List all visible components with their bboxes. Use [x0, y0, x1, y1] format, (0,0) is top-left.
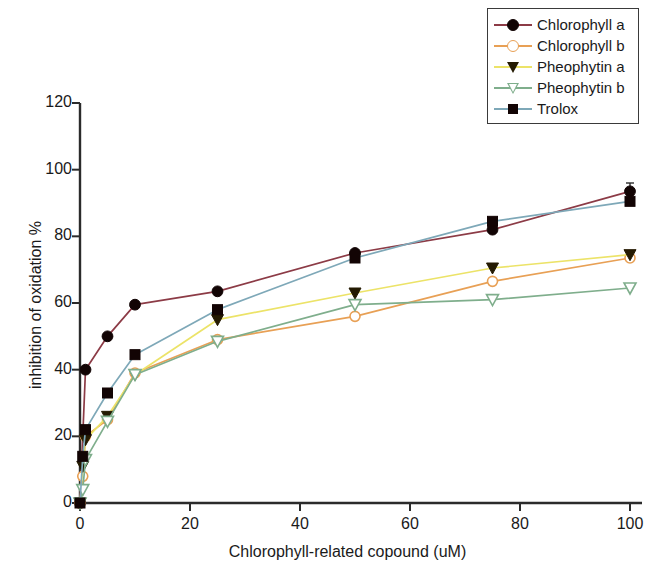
- data-point-chlorophyll-b: [488, 276, 498, 286]
- legend: Chlorophyll a Chlorophyll b Pheophytin a…: [487, 8, 639, 124]
- series-trolox: [75, 196, 635, 508]
- x-tick-label: 60: [380, 515, 440, 533]
- x-tick-label: 20: [160, 515, 220, 533]
- legend-item-chlorophyll-b: Chlorophyll b: [494, 35, 632, 56]
- legend-swatch-chlorophyll-a: [494, 17, 532, 33]
- data-point-trolox: [81, 425, 91, 435]
- data-point-trolox: [488, 216, 498, 226]
- legend-swatch-trolox: [494, 101, 532, 117]
- circle-open-marker-icon: [507, 40, 519, 52]
- legend-swatch-pheophytin-a: [494, 59, 532, 75]
- chart-figure: 020406080100120 020406080100 Chlorophyll…: [0, 0, 647, 569]
- series-chlorophyll-a: [75, 183, 636, 508]
- triangle-down-open-marker-icon: [507, 83, 519, 94]
- data-point-pheophytin-b: [77, 485, 89, 496]
- data-point-chlorophyll-a: [102, 331, 113, 342]
- x-axis-title: Chlorophyll-related copound (uM): [0, 543, 647, 561]
- y-tick-label: 0: [30, 493, 72, 511]
- legend-item-chlorophyll-a: Chlorophyll a: [494, 14, 632, 35]
- series-pheophytin-a: [74, 250, 636, 509]
- legend-label-pheophytin-a: Pheophytin a: [537, 59, 625, 75]
- data-point-chlorophyll-a: [80, 364, 91, 375]
- legend-item-pheophytin-b: Pheophytin b: [494, 77, 632, 98]
- data-point-trolox: [75, 498, 85, 508]
- series-group: [74, 183, 636, 509]
- legend-swatch-pheophytin-b: [494, 80, 532, 96]
- legend-label-pheophytin-b: Pheophytin b: [537, 80, 625, 96]
- series-line-trolox: [80, 201, 630, 503]
- y-axis-title: inhibition of oxidation %: [27, 165, 45, 445]
- data-point-chlorophyll-b: [350, 311, 360, 321]
- data-point-trolox: [103, 388, 113, 398]
- legend-item-pheophytin-a: Pheophytin a: [494, 56, 632, 77]
- data-point-chlorophyll-a: [625, 186, 636, 197]
- legend-label-trolox: Trolox: [537, 101, 578, 117]
- series-line-chlorophyll-a: [80, 191, 630, 503]
- data-point-trolox: [213, 305, 223, 315]
- data-point-trolox: [350, 253, 360, 263]
- square-filled-marker-icon: [508, 104, 518, 114]
- data-point-chlorophyll-a: [130, 299, 141, 310]
- x-tick-label: 100: [600, 515, 647, 533]
- x-tick-label: 80: [490, 515, 550, 533]
- legend-swatch-chlorophyll-b: [494, 38, 532, 54]
- legend-label-chlorophyll-b: Chlorophyll b: [537, 38, 625, 54]
- circle-filled-marker-icon: [507, 19, 519, 31]
- data-point-pheophytin-a: [212, 315, 224, 326]
- y-tick-label: 120: [30, 93, 72, 111]
- data-point-trolox: [78, 451, 88, 461]
- legend-label-chlorophyll-a: Chlorophyll a: [537, 17, 625, 33]
- x-tick-label: 0: [50, 515, 110, 533]
- data-point-trolox: [625, 196, 635, 206]
- data-point-chlorophyll-a: [212, 286, 223, 297]
- legend-item-trolox: Trolox: [494, 98, 632, 119]
- triangle-down-filled-marker-icon: [507, 62, 519, 73]
- data-point-trolox: [130, 350, 140, 360]
- x-tick-label: 40: [270, 515, 330, 533]
